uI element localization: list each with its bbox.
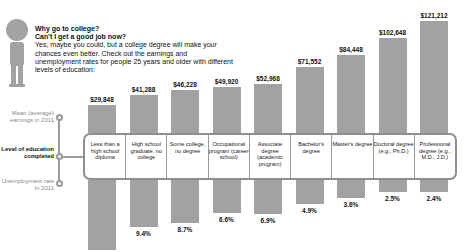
intro-body: Yes, maybe you could, but a college degr… [35, 41, 235, 74]
earnings-value-label: $29,848 [77, 96, 127, 103]
earnings-bar [254, 84, 282, 133]
unemployment-bar [213, 180, 241, 213]
unemployment-value-label: 6.9% [243, 217, 293, 224]
earnings-bar [88, 105, 116, 133]
earnings-value-label: $52,968 [243, 75, 293, 82]
education-level-cell: Bachelor's degree [291, 135, 332, 178]
unemployment-value-label: 2.4% [409, 195, 459, 202]
legend-line [58, 118, 60, 182]
education-level-cell: Some college, no degree [167, 135, 208, 178]
education-level-box: Less than a high school diplomaHigh scho… [83, 133, 457, 180]
education-level-cell: Professional degree (e.g., M.D., J.D.) [415, 135, 455, 178]
earnings-axis-label: Mean (average) earnings in 2011 [0, 110, 54, 124]
education-level-cell: Doctoral degree (e.g., Ph.D.) [374, 135, 415, 178]
unemployment-bar [420, 180, 448, 192]
unemployment-bar [254, 180, 282, 214]
earnings-bar [171, 90, 199, 133]
earnings-value-label: $84,448 [326, 46, 376, 53]
earnings-bar [420, 21, 448, 133]
intro-heading-2: Can't I get a good job now? [35, 33, 235, 41]
earnings-dot [56, 114, 63, 121]
education-level-cell: Master's degree [332, 135, 373, 178]
person-figure-icon [2, 18, 32, 90]
earnings-value-label: $102,648 [368, 29, 418, 36]
unemployment-value-label: 4.9% [285, 207, 335, 214]
unemployment-bar [88, 180, 116, 250]
unemployment-bar [130, 180, 158, 227]
earnings-bar [337, 55, 365, 133]
education-level-cell: Less than a high school diploma [85, 135, 126, 178]
connector-line [62, 156, 84, 158]
education-level-cell: High school graduate, no college [126, 135, 167, 178]
unemployment-bar [337, 180, 365, 198]
unemployment-bar [379, 180, 407, 192]
level-axis-label: Level of education completed [0, 146, 54, 160]
earnings-value-label: $121,212 [409, 12, 459, 19]
education-level-cell: Associate degree (academic program) [250, 135, 291, 178]
earnings-value-label: $71,552 [285, 58, 335, 65]
earnings-bar [213, 87, 241, 133]
earnings-bar [130, 95, 158, 133]
intro-text: Why go to college? Can't I get a good jo… [35, 25, 235, 74]
intro-heading-1: Why go to college? [35, 25, 235, 33]
unemployment-axis-label: Unemployment rate in 2011 [0, 178, 54, 192]
earnings-bar [296, 67, 324, 133]
education-level-cell: Occupational program (career school) [209, 135, 250, 178]
unemployment-bar [171, 180, 199, 223]
unemployment-dot [56, 180, 63, 187]
earnings-bar [379, 38, 407, 133]
unemployment-value-label: 8.7% [160, 226, 210, 233]
unemployment-bar [296, 180, 324, 204]
